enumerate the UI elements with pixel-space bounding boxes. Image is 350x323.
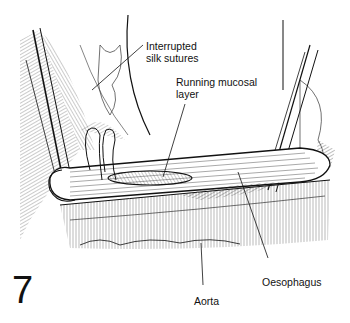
figure-number: 7 bbox=[12, 270, 33, 310]
label-running-mucosal-layer: Running mucosal layer bbox=[176, 76, 257, 100]
label-oesophagus: Oesophagus bbox=[262, 276, 322, 288]
label-aorta: Aorta bbox=[194, 295, 219, 307]
label-interrupted-silk-sutures: Interrupted silk sutures bbox=[146, 40, 199, 64]
pleura-outline bbox=[80, 15, 150, 140]
